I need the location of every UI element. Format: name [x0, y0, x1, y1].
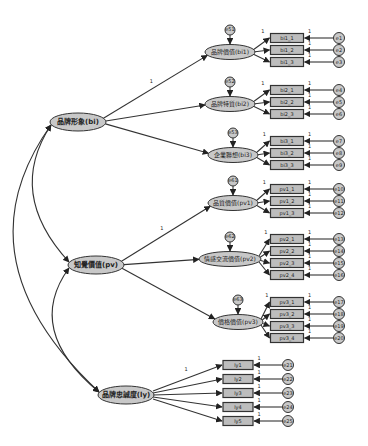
error-fixed-label: 1	[308, 80, 311, 86]
sem-diagram-canvas: 品牌形象(bi)知覺價值(pv)品牌忠誠度(ly)1e51品牌價值(bi1)bi…	[0, 0, 368, 446]
error-label: e25	[283, 418, 292, 424]
loading-pv2-pv2_1	[259, 239, 270, 256]
indicator-label: pv3_3	[280, 323, 295, 330]
error-label: e12	[334, 210, 343, 216]
error-label: e24	[283, 404, 292, 410]
latent-label-pv2: 情感交流價值(pv2)	[204, 255, 256, 263]
indicator-label: bi2_3	[280, 111, 293, 118]
path-bi-bi3	[105, 124, 208, 153]
error-fixed-label: 1	[308, 203, 311, 209]
indicator-label: pv3_2	[280, 311, 295, 318]
disturbance-label: e62	[225, 233, 234, 239]
error-fixed-label: 1	[308, 52, 311, 58]
indicator-label: ly3	[234, 390, 242, 397]
error-label: e1	[336, 35, 342, 41]
latent-label-bi: 品牌形象(bi)	[57, 117, 99, 126]
error-label: e2	[336, 47, 342, 53]
fixed-loading-label: 1	[150, 78, 153, 84]
indicator-label: bi2_1	[280, 87, 293, 94]
latent-label-bi1: 品牌價值(bi1)	[211, 48, 249, 56]
error-fixed-label: 1	[257, 369, 260, 375]
indicator-label: pv1_3	[280, 210, 295, 217]
error-fixed-label: 1	[308, 179, 311, 185]
fixed-loading-label: 1	[184, 366, 187, 372]
indicator-label: pv2_4	[280, 272, 295, 279]
error-label: e4	[336, 87, 342, 93]
loading-bi1-bi1_1	[253, 38, 270, 50]
disturbance-label: e52	[225, 78, 234, 84]
error-fixed-label: 1	[308, 92, 311, 98]
disturbance-label: e51	[225, 26, 234, 32]
path-pv-pv2	[124, 259, 199, 264]
indicator-label: ly5	[234, 418, 242, 425]
error-label: e9	[336, 162, 342, 168]
error-label: e15	[334, 260, 343, 266]
latent-label-pv1: 品質價值(pv1)	[213, 199, 253, 207]
indicator-label: bi1_2	[280, 47, 293, 54]
error-fixed-label: 1	[308, 304, 311, 310]
error-fixed-label: 1	[308, 229, 311, 235]
fixed-loading-label: 1	[264, 229, 267, 235]
indicator-label: pv2_2	[280, 248, 295, 255]
error-fixed-label: 1	[308, 316, 311, 322]
error-label: e8	[336, 150, 342, 156]
error-fixed-label: 1	[308, 265, 311, 271]
indicator-label: pv2_3	[280, 260, 295, 267]
error-label: e21	[283, 362, 292, 368]
error-label: e22	[283, 376, 292, 382]
fixed-loading-label: 1	[261, 80, 264, 86]
indicator-label: bi3_1	[280, 138, 293, 145]
loading-bi1-bi1_3	[253, 54, 270, 62]
error-label: e18	[334, 311, 343, 317]
path-diagram: 品牌形象(bi)知覺價值(pv)品牌忠誠度(ly)1e51品牌價值(bi1)bi…	[0, 0, 368, 446]
indicator-label: pv3_1	[280, 299, 295, 306]
latent-label-ly: 品牌忠誠度(ly)	[102, 390, 150, 399]
error-label: e19	[334, 323, 343, 329]
loading-ly-ly3	[153, 393, 222, 395]
error-label: e16	[334, 272, 343, 278]
indicator-label: ly1	[234, 362, 242, 369]
error-label: e7	[336, 138, 342, 144]
indicator-label: ly2	[234, 376, 242, 383]
loading-bi2-bi2_3	[253, 106, 270, 114]
indicator-label: bi3_2	[280, 150, 293, 157]
error-label: e17	[334, 299, 343, 305]
error-fixed-label: 1	[308, 292, 311, 298]
error-label: e3	[336, 59, 342, 65]
indicator-label: pv1_2	[280, 198, 295, 205]
error-fixed-label: 1	[308, 143, 311, 149]
error-fixed-label: 1	[257, 397, 260, 403]
error-fixed-label: 1	[308, 104, 311, 110]
path-pv-pv3	[122, 268, 215, 319]
indicator-label: pv2_1	[280, 236, 295, 243]
error-label: e23	[283, 390, 292, 396]
error-fixed-label: 1	[308, 328, 311, 334]
error-label: e6	[336, 111, 342, 117]
indicator-label: bi3_3	[280, 162, 293, 169]
path-bi-bi1	[103, 55, 207, 118]
error-label: e13	[334, 236, 343, 242]
covariance-pv-ly	[52, 268, 99, 392]
latent-label-pv3: 價格價值(pv3)	[218, 318, 258, 326]
indicator-label: ly4	[234, 404, 242, 411]
indicator-label: bi2_2	[280, 99, 293, 106]
latent-label-pv: 知覺價值(pv)	[73, 260, 118, 269]
indicator-label: bi1_3	[280, 59, 293, 66]
error-fixed-label: 1	[308, 191, 311, 197]
loading-pv3-pv3_4	[261, 325, 270, 338]
loading-bi3-bi3_1	[256, 141, 270, 153]
error-fixed-label: 1	[257, 383, 260, 389]
error-fixed-label: 1	[308, 241, 311, 247]
loading-ly-ly2	[153, 379, 222, 393]
error-label: e5	[336, 99, 342, 105]
error-fixed-label: 1	[308, 40, 311, 46]
error-fixed-label: 1	[257, 355, 260, 361]
error-label: e11	[334, 198, 343, 204]
error-label: e10	[334, 186, 343, 192]
loading-pv1-pv1_3	[256, 205, 270, 213]
latent-label-bi2: 品牌特質(bi2)	[211, 100, 249, 108]
indicator-label: pv1_1	[280, 186, 295, 193]
loading-pv2-pv2_4	[259, 262, 270, 275]
error-fixed-label: 1	[308, 28, 311, 34]
error-fixed-label: 1	[308, 131, 311, 137]
